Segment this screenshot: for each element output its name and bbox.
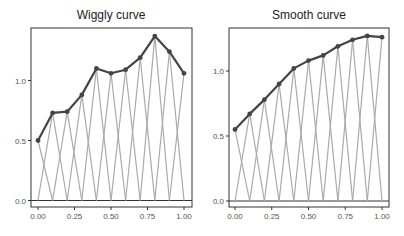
zigzag-lines bbox=[38, 36, 184, 200]
y-tick-label: 0.5 bbox=[15, 137, 27, 146]
x-tick-label: 0.50 bbox=[301, 212, 317, 221]
data-point bbox=[79, 93, 84, 98]
data-point bbox=[365, 34, 370, 39]
x-tick-label: 0.25 bbox=[67, 212, 83, 221]
chart-panel-2: Smooth curve0.00.51.00.000.250.500.751.0… bbox=[213, 8, 390, 221]
data-point bbox=[36, 138, 41, 143]
y-tick-label: 1.0 bbox=[15, 77, 27, 86]
data-point bbox=[321, 53, 326, 58]
data-point bbox=[182, 71, 187, 76]
y-tick-label: 0.0 bbox=[15, 197, 27, 206]
data-point bbox=[247, 112, 252, 117]
data-point bbox=[262, 97, 267, 102]
data-point bbox=[50, 111, 55, 116]
x-tick-label: 0.00 bbox=[227, 212, 243, 221]
data-point bbox=[380, 35, 385, 40]
data-point bbox=[65, 109, 70, 114]
data-point bbox=[277, 82, 282, 87]
x-tick-label: 0.50 bbox=[103, 212, 119, 221]
y-tick-label: 0.5 bbox=[213, 132, 225, 141]
x-tick-label: 0.25 bbox=[264, 212, 280, 221]
data-point bbox=[109, 71, 114, 76]
chart-figure: Wiggly curve0.00.51.00.000.250.500.751.0… bbox=[0, 0, 404, 236]
x-tick-label: 0.00 bbox=[30, 212, 46, 221]
x-tick-label: 0.75 bbox=[140, 212, 156, 221]
data-point bbox=[291, 66, 296, 71]
data-point bbox=[138, 55, 143, 60]
data-point bbox=[306, 58, 311, 63]
data-point bbox=[350, 37, 355, 42]
chart-title: Smooth curve bbox=[272, 8, 346, 22]
x-tick-label: 1.00 bbox=[176, 212, 192, 221]
data-point bbox=[94, 66, 99, 71]
y-tick-label: 1.0 bbox=[213, 67, 225, 76]
data-point bbox=[233, 127, 238, 132]
y-tick-label: 0.0 bbox=[213, 197, 225, 206]
x-tick-label: 0.75 bbox=[337, 212, 353, 221]
chart-panel-1: Wiggly curve0.00.51.00.000.250.500.751.0… bbox=[15, 8, 192, 221]
data-point bbox=[123, 67, 128, 72]
data-point bbox=[167, 49, 172, 54]
data-point bbox=[336, 44, 341, 49]
data-point bbox=[152, 34, 157, 39]
chart-title: Wiggly curve bbox=[77, 8, 146, 22]
x-tick-label: 1.00 bbox=[374, 212, 390, 221]
